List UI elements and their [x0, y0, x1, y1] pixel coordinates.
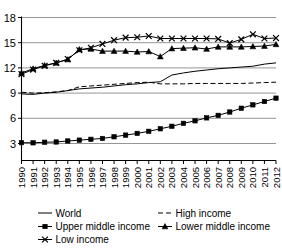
legend-item-upper-middle-income[interactable]: Upper middle income — [38, 221, 150, 232]
x-axis — [22, 161, 277, 165]
series-lower-middle-income — [19, 41, 279, 75]
x-tick-label: 1996 — [86, 167, 97, 188]
y-tick-labels: 369121518 — [4, 12, 16, 150]
x-marker — [238, 36, 244, 42]
square-marker — [43, 224, 47, 228]
x-tick-label: 1998 — [109, 167, 120, 188]
square-marker — [77, 138, 81, 142]
square-marker — [216, 113, 220, 117]
x-tick-label: 2012 — [271, 167, 282, 188]
square-marker — [66, 139, 70, 143]
legend-label: Low income — [56, 234, 110, 245]
y-tick-label: 12 — [4, 62, 16, 74]
square-marker — [112, 135, 116, 139]
x-tick-labels: 1990199119921993199419951996199719981999… — [16, 167, 282, 188]
square-marker — [89, 137, 93, 141]
chart-container: 369121518 199019911992199319941995199619… — [0, 0, 282, 248]
square-marker — [135, 131, 139, 135]
triangle-marker — [157, 54, 163, 59]
series-line — [22, 98, 277, 143]
square-marker — [251, 103, 255, 107]
x-marker — [250, 31, 256, 37]
x-tick-label: 2006 — [201, 167, 212, 188]
square-marker — [228, 110, 232, 114]
square-marker — [19, 140, 23, 144]
x-tick-label: 2000 — [132, 167, 143, 188]
square-marker — [123, 133, 127, 137]
x-tick-label: 1994 — [62, 167, 73, 188]
square-marker — [181, 121, 185, 125]
x-tick-label: 2002 — [155, 167, 166, 188]
x-tick-label: 2010 — [247, 167, 258, 188]
x-tick-label: 1995 — [74, 167, 85, 188]
y-axis — [18, 17, 22, 162]
x-tick-label: 2003 — [166, 167, 177, 188]
x-marker — [100, 41, 106, 47]
x-tick-label: 2005 — [190, 167, 201, 188]
x-tick-label: 1997 — [97, 167, 108, 188]
legend-item-lower-middle-income[interactable]: Lower middle income — [158, 221, 270, 232]
series-upper-middle-income — [19, 96, 278, 145]
x-tick-label: 1991 — [28, 167, 39, 188]
x-tick-label: 2009 — [236, 167, 247, 188]
square-marker — [262, 99, 266, 103]
legend-item-high-income[interactable]: High income — [158, 208, 232, 219]
x-tick-label: 2011 — [259, 167, 270, 187]
legend-label: Lower middle income — [176, 221, 271, 232]
square-marker — [158, 127, 162, 131]
x-tick-label: 2001 — [143, 167, 154, 188]
x-tick-label: 1992 — [39, 167, 50, 188]
square-marker — [170, 124, 174, 128]
square-marker — [239, 106, 243, 110]
legend-label: Upper middle income — [56, 221, 151, 232]
square-marker — [100, 136, 104, 140]
y-tick-label: 15 — [4, 37, 16, 49]
square-marker — [204, 116, 208, 120]
y-tick-label: 18 — [4, 12, 16, 24]
x-tick-label: 1993 — [51, 167, 62, 188]
y-tick-label: 9 — [10, 87, 16, 99]
square-marker — [54, 140, 58, 144]
square-marker — [274, 96, 278, 100]
square-marker — [193, 119, 197, 123]
legend-item-world[interactable]: World — [38, 208, 81, 219]
chart-legend: WorldHigh incomeUpper middle incomeLower… — [38, 208, 270, 246]
y-tick-label: 3 — [10, 138, 16, 150]
line-chart: 369121518 199019911992199319941995199619… — [0, 0, 282, 248]
x-tick-label: 2008 — [224, 167, 235, 188]
square-marker — [42, 140, 46, 144]
x-tick-label: 2004 — [178, 167, 189, 188]
x-tick-label: 1999 — [120, 167, 131, 188]
legend-label: High income — [176, 208, 232, 219]
series-low-income — [19, 31, 279, 77]
y-tick-label: 6 — [10, 112, 16, 124]
legend-label: World — [56, 208, 82, 219]
legend-item-low-income[interactable]: Low income — [38, 234, 109, 245]
square-marker — [31, 141, 35, 145]
x-tick-label: 2007 — [213, 167, 224, 188]
square-marker — [147, 129, 151, 133]
series-group — [19, 31, 279, 145]
x-tick-label: 1990 — [16, 167, 27, 188]
